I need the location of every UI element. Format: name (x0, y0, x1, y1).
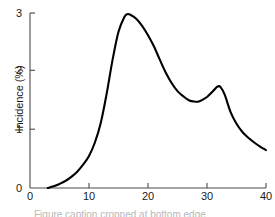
x-tick-label-0: 0 (20, 191, 40, 202)
x-tick-label-40: 40 (256, 191, 275, 202)
y-tick-marks (30, 13, 35, 129)
incidence-curve (48, 14, 266, 188)
x-tick-label-30: 30 (197, 191, 217, 202)
x-tick-label-10: 10 (79, 191, 99, 202)
chart-figure: Incidence (%) 3 2 1 0 0 10 20 30 40 Figu… (0, 0, 275, 217)
y-axis-label: Incidence (%) (14, 39, 25, 159)
x-tick-label-20: 20 (138, 191, 158, 202)
plot-canvas (0, 0, 275, 217)
y-tick-label-1: 1 (8, 124, 22, 135)
y-tick-label-2: 2 (8, 65, 22, 76)
cropped-caption: Figure caption cropped at bottom edge (34, 209, 234, 217)
y-tick-label-3: 3 (8, 8, 22, 19)
x-tick-marks (89, 183, 266, 188)
